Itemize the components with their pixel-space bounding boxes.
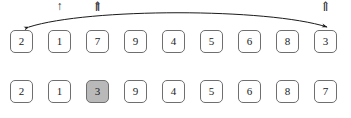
array-cell: 3 [86, 80, 109, 103]
array-swap-figure: 217945683 ↑↑⇑ 213945687 ⇑ [0, 0, 351, 118]
array-cell: 6 [238, 80, 261, 103]
array-cell: 4 [162, 30, 185, 53]
pointer-i-icon: ↑ [51, 0, 69, 12]
array-cell: 4 [162, 80, 185, 103]
pointer-pivot-icon: ⇑ [317, 0, 335, 13]
array-cell: 1 [48, 80, 71, 103]
array-cell: 7 [314, 80, 337, 103]
array-cell: 2 [10, 80, 33, 103]
array-cell: 7 [86, 30, 109, 53]
array-cell: 9 [124, 80, 147, 103]
array-cell: 3 [314, 30, 337, 53]
array-cell: 9 [124, 30, 147, 53]
array-cell: 5 [200, 30, 223, 53]
array-cell: 5 [200, 80, 223, 103]
array-row-after: 213945687 [0, 80, 351, 104]
array-cell: 6 [238, 30, 261, 53]
array-cell: 2 [10, 30, 33, 53]
pointer-pivot-final-icon: ⇑ [89, 0, 107, 13]
array-cell: 1 [48, 30, 71, 53]
array-cell: 8 [276, 80, 299, 103]
array-cell: 8 [276, 30, 299, 53]
array-row-before: 217945683 [0, 30, 351, 54]
